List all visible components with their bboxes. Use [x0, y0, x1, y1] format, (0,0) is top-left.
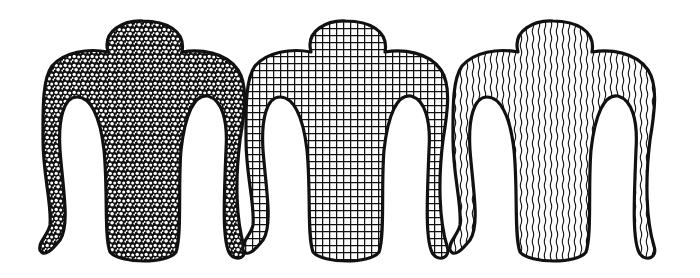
- shape-right: [450, 21, 655, 261]
- illustration-figure: Dense cellular (stippled) texture Crossh…: [0, 0, 700, 278]
- shape-left: [40, 21, 245, 261]
- shape-middle: [243, 21, 448, 261]
- shapes-svg: [0, 0, 700, 278]
